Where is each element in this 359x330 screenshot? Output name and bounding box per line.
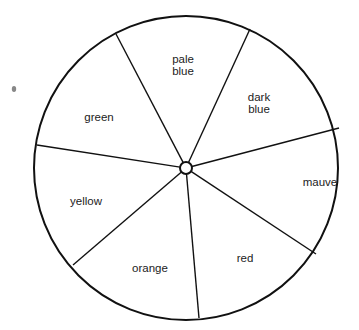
segment-label-red: red [237, 252, 254, 264]
hub [180, 162, 192, 174]
spoke-line [187, 174, 199, 318]
segment-label-yellow: yellow [70, 195, 103, 207]
segment-label-mauve: mauve [303, 176, 338, 188]
spoke-line [191, 171, 316, 254]
stray-speck [12, 86, 16, 92]
spoke-line [189, 29, 250, 163]
spoke-line [192, 128, 339, 166]
spoke-line [73, 172, 181, 265]
spoke-line [37, 145, 180, 167]
color-wheel-diagram: palebluedarkbluemauveredorangeyellowgree… [0, 0, 359, 330]
segment-label-orange: orange [132, 262, 168, 274]
segment-label-green: green [84, 111, 113, 123]
segment-label-dark-blue: darkblue [248, 91, 271, 115]
segment-label-pale-blue: paleblue [172, 53, 194, 77]
